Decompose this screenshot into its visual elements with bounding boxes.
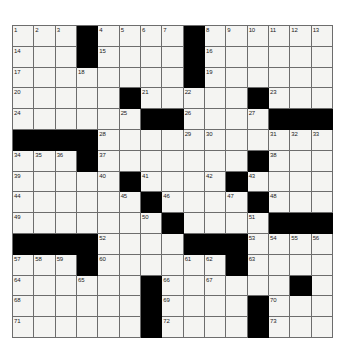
grid-cell[interactable]: 4 xyxy=(98,26,119,47)
grid-cell[interactable]: 46 xyxy=(162,192,183,213)
grid-cell[interactable] xyxy=(290,151,311,172)
grid-cell[interactable] xyxy=(226,109,247,130)
grid-cell[interactable]: 36 xyxy=(56,151,77,172)
grid-cell[interactable]: 51 xyxy=(248,213,269,234)
grid-cell[interactable] xyxy=(98,109,119,130)
grid-cell[interactable] xyxy=(56,88,77,109)
grid-cell[interactable]: 23 xyxy=(269,88,290,109)
grid-cell[interactable] xyxy=(141,47,162,68)
grid-cell[interactable]: 48 xyxy=(269,192,290,213)
grid-cell[interactable] xyxy=(162,88,183,109)
grid-cell[interactable] xyxy=(77,172,98,193)
grid-cell[interactable]: 26 xyxy=(184,109,205,130)
grid-cell[interactable] xyxy=(34,317,55,338)
grid-cell[interactable] xyxy=(162,47,183,68)
grid-cell[interactable]: 2 xyxy=(34,26,55,47)
grid-cell[interactable] xyxy=(290,296,311,317)
grid-cell[interactable] xyxy=(226,296,247,317)
grid-cell[interactable]: 71 xyxy=(13,317,34,338)
grid-cell[interactable] xyxy=(56,47,77,68)
grid-cell[interactable] xyxy=(120,151,141,172)
grid-cell[interactable] xyxy=(205,151,226,172)
grid-cell[interactable] xyxy=(120,234,141,255)
grid-cell[interactable]: 53 xyxy=(248,234,269,255)
grid-cell[interactable] xyxy=(205,109,226,130)
grid-cell[interactable] xyxy=(120,276,141,297)
grid-cell[interactable] xyxy=(162,234,183,255)
grid-cell[interactable] xyxy=(269,68,290,89)
grid-cell[interactable] xyxy=(56,172,77,193)
grid-cell[interactable]: 68 xyxy=(13,296,34,317)
grid-cell[interactable] xyxy=(34,172,55,193)
grid-cell[interactable]: 3 xyxy=(56,26,77,47)
grid-cell[interactable] xyxy=(205,296,226,317)
grid-cell[interactable]: 30 xyxy=(205,130,226,151)
grid-cell[interactable]: 5 xyxy=(120,26,141,47)
grid-cell[interactable] xyxy=(290,172,311,193)
grid-cell[interactable] xyxy=(77,88,98,109)
grid-cell[interactable] xyxy=(248,276,269,297)
grid-cell[interactable] xyxy=(269,255,290,276)
grid-cell[interactable]: 56 xyxy=(312,234,333,255)
grid-cell[interactable]: 64 xyxy=(13,276,34,297)
grid-cell[interactable] xyxy=(290,68,311,89)
grid-cell[interactable] xyxy=(162,172,183,193)
grid-cell[interactable] xyxy=(162,130,183,151)
grid-cell[interactable]: 32 xyxy=(290,130,311,151)
grid-cell[interactable]: 16 xyxy=(205,47,226,68)
grid-cell[interactable] xyxy=(120,213,141,234)
grid-cell[interactable]: 69 xyxy=(162,296,183,317)
grid-cell[interactable] xyxy=(312,255,333,276)
grid-cell[interactable] xyxy=(269,276,290,297)
grid-cell[interactable] xyxy=(226,47,247,68)
grid-cell[interactable]: 27 xyxy=(248,109,269,130)
grid-cell[interactable] xyxy=(141,68,162,89)
grid-cell[interactable] xyxy=(248,130,269,151)
grid-cell[interactable] xyxy=(162,151,183,172)
grid-cell[interactable] xyxy=(34,109,55,130)
grid-cell[interactable]: 49 xyxy=(13,213,34,234)
grid-cell[interactable] xyxy=(56,68,77,89)
grid-cell[interactable] xyxy=(98,192,119,213)
grid-cell[interactable] xyxy=(226,130,247,151)
grid-cell[interactable]: 50 xyxy=(141,213,162,234)
crossword-grid[interactable]: 1234567891011121314151617181920212223242… xyxy=(12,25,333,338)
grid-cell[interactable]: 72 xyxy=(162,317,183,338)
grid-cell[interactable]: 34 xyxy=(13,151,34,172)
grid-cell[interactable] xyxy=(77,192,98,213)
grid-cell[interactable]: 35 xyxy=(34,151,55,172)
grid-cell[interactable]: 13 xyxy=(312,26,333,47)
grid-cell[interactable] xyxy=(312,192,333,213)
grid-cell[interactable] xyxy=(98,296,119,317)
grid-cell[interactable] xyxy=(98,317,119,338)
grid-cell[interactable] xyxy=(98,68,119,89)
grid-cell[interactable]: 6 xyxy=(141,26,162,47)
grid-cell[interactable] xyxy=(184,276,205,297)
grid-cell[interactable] xyxy=(226,276,247,297)
grid-cell[interactable]: 73 xyxy=(269,317,290,338)
grid-cell[interactable]: 39 xyxy=(13,172,34,193)
grid-cell[interactable]: 52 xyxy=(98,234,119,255)
grid-cell[interactable]: 12 xyxy=(290,26,311,47)
grid-cell[interactable] xyxy=(34,276,55,297)
grid-cell[interactable]: 44 xyxy=(13,192,34,213)
grid-cell[interactable]: 57 xyxy=(13,255,34,276)
grid-cell[interactable]: 1 xyxy=(13,26,34,47)
grid-cell[interactable] xyxy=(312,47,333,68)
grid-cell[interactable] xyxy=(120,47,141,68)
grid-cell[interactable]: 20 xyxy=(13,88,34,109)
grid-cell[interactable] xyxy=(141,151,162,172)
grid-cell[interactable]: 29 xyxy=(184,130,205,151)
grid-cell[interactable] xyxy=(290,255,311,276)
grid-cell[interactable] xyxy=(248,68,269,89)
grid-cell[interactable]: 62 xyxy=(205,255,226,276)
grid-cell[interactable]: 9 xyxy=(226,26,247,47)
grid-cell[interactable]: 41 xyxy=(141,172,162,193)
grid-cell[interactable] xyxy=(184,296,205,317)
grid-cell[interactable]: 11 xyxy=(269,26,290,47)
grid-cell[interactable]: 60 xyxy=(98,255,119,276)
grid-cell[interactable] xyxy=(98,88,119,109)
grid-cell[interactable]: 18 xyxy=(77,68,98,89)
grid-cell[interactable] xyxy=(77,317,98,338)
grid-cell[interactable] xyxy=(248,47,269,68)
